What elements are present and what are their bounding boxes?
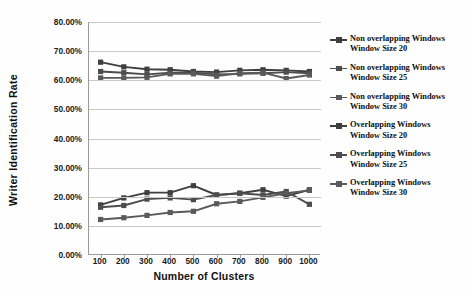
- y-axis-title-text: Writer Identification Rate: [7, 74, 19, 206]
- x-axis-tick-label: 100: [93, 256, 107, 266]
- legend-label-line1: Non overlapping Windows: [350, 34, 445, 43]
- data-point-marker: [214, 74, 219, 79]
- data-point-marker: [191, 183, 196, 188]
- legend-marker-icon: [330, 66, 347, 71]
- legend-label-line1: Overlapping Windows: [350, 178, 430, 187]
- legend-label-line1: Non overlapping Windows: [350, 92, 445, 101]
- gridline: [89, 51, 321, 52]
- legend-item[interactable]: Non overlapping WindowsWindow Size 25: [330, 63, 468, 84]
- data-point-marker: [237, 199, 242, 204]
- x-axis-tick-label: 900: [278, 256, 292, 266]
- data-point-marker: [168, 71, 173, 76]
- plot-area: [88, 22, 320, 255]
- data-point-marker: [191, 209, 196, 214]
- legend-item[interactable]: Non overlapping WindowsWindow Size 30: [330, 92, 468, 113]
- y-axis-tick-labels: 0.00%10.00%20.00%30.00%40.00%50.00%60.00…: [24, 0, 86, 292]
- y-axis-tick-label: 70.00%: [54, 46, 82, 56]
- legend-label-line2: Window Size 25: [350, 73, 468, 83]
- gridline: [89, 168, 321, 169]
- data-point-marker: [214, 201, 219, 206]
- data-point-marker: [98, 217, 103, 222]
- data-point-marker: [144, 190, 149, 195]
- legend-item[interactable]: Overlapping WindowsWindow Size 25: [330, 149, 468, 170]
- data-point-marker: [98, 69, 103, 74]
- data-point-marker: [307, 188, 312, 193]
- data-point-marker: [284, 70, 289, 75]
- chart-figure: Writer Identification Rate 0.00%10.00%20…: [0, 0, 470, 292]
- y-axis-tick-label: 80.00%: [54, 17, 82, 27]
- legend-label-line1: Overlapping Windows: [350, 120, 430, 129]
- gridline: [89, 226, 321, 227]
- data-point-marker: [260, 187, 265, 192]
- gridline: [89, 139, 321, 140]
- x-axis-tick-label: 300: [139, 256, 153, 266]
- data-point-marker: [121, 70, 126, 75]
- data-point-marker: [237, 191, 242, 196]
- legend-label-line2: Window Size 20: [350, 44, 468, 54]
- gridline: [89, 22, 321, 23]
- y-axis-title: Writer Identification Rate: [2, 40, 24, 240]
- data-point-marker: [237, 71, 242, 76]
- x-axis-tick-label: 1000: [299, 256, 317, 266]
- x-axis-tick-label: 700: [232, 256, 246, 266]
- series-line: [101, 62, 310, 72]
- legend-marker-icon: [330, 37, 347, 42]
- legend-item[interactable]: Overlapping WindowsWindow Size 30: [330, 178, 468, 199]
- chart-legend: Non overlapping WindowsWindow Size 20Non…: [330, 34, 468, 207]
- data-point-marker: [144, 75, 149, 80]
- legend-label-line1: Overlapping Windows: [350, 149, 430, 158]
- legend-label-line2: Window Size 25: [350, 160, 468, 170]
- y-axis-tick-label: 50.00%: [54, 104, 82, 114]
- data-point-marker: [307, 72, 312, 77]
- data-point-marker: [260, 70, 265, 75]
- x-axis-title: Number of Clusters: [88, 270, 320, 282]
- data-point-marker: [121, 215, 126, 220]
- x-axis-tick-label: 600: [209, 256, 223, 266]
- legend-label-line2: Window Size 30: [350, 188, 468, 198]
- y-axis-tick-label: 60.00%: [54, 75, 82, 85]
- y-axis-tick-label: 0.00%: [58, 250, 82, 260]
- gridline: [89, 197, 321, 198]
- data-point-marker: [168, 190, 173, 195]
- y-axis-tick-label: 40.00%: [54, 134, 82, 144]
- gridline: [89, 80, 321, 81]
- legend-label-line2: Window Size 30: [350, 102, 468, 112]
- data-point-marker: [144, 67, 149, 72]
- legend-marker-icon: [330, 123, 347, 128]
- data-point-marker: [284, 191, 289, 196]
- x-axis-tick-label: 800: [255, 256, 269, 266]
- data-point-marker: [307, 202, 312, 207]
- data-point-marker: [121, 64, 126, 69]
- gridline: [89, 109, 321, 110]
- y-axis-tick-label: 10.00%: [54, 221, 82, 231]
- data-point-marker: [144, 213, 149, 218]
- legend-label-line2: Window Size 20: [350, 131, 468, 141]
- x-axis-tick-label: 200: [116, 256, 130, 266]
- data-point-marker: [98, 205, 103, 210]
- y-axis-tick-label: 20.00%: [54, 192, 82, 202]
- legend-item[interactable]: Non overlapping WindowsWindow Size 20: [330, 34, 468, 55]
- legend-marker-icon: [330, 95, 347, 100]
- legend-label-line1: Non overlapping Windows: [350, 63, 445, 72]
- data-point-marker: [191, 71, 196, 76]
- y-axis-tick-label: 30.00%: [54, 163, 82, 173]
- legend-marker-icon: [330, 181, 347, 186]
- legend-item[interactable]: Overlapping WindowsWindow Size 20: [330, 120, 468, 141]
- data-point-marker: [98, 60, 103, 65]
- x-axis-tick-label: 500: [185, 256, 199, 266]
- x-axis-tick-label: 400: [162, 256, 176, 266]
- data-point-marker: [168, 210, 173, 215]
- series-line: [101, 190, 310, 219]
- legend-marker-icon: [330, 152, 347, 157]
- data-point-marker: [191, 197, 196, 202]
- data-point-marker: [121, 203, 126, 208]
